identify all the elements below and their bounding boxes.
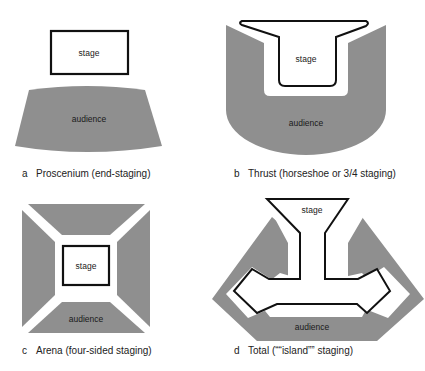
panel-arena: stage audience <box>0 185 212 371</box>
caption-c: cArena (four-sided staging) <box>22 345 152 356</box>
arena-diagram: stage audience <box>0 185 212 371</box>
caption-letter: a <box>22 168 36 179</box>
stage-label: stage <box>302 205 323 215</box>
total-diagram: stage audience <box>212 185 425 371</box>
stage-label: stage <box>76 261 97 271</box>
proscenium-diagram: stage audience <box>0 0 212 185</box>
panel-thrust: stage audience <box>212 0 425 185</box>
caption-title: Proscenium (end-staging) <box>36 168 151 179</box>
caption-title: Thrust (horseshoe or 3/4 staging) <box>248 168 396 179</box>
audience-top <box>28 204 145 235</box>
caption-title: Total (““island”” staging) <box>248 345 353 356</box>
caption-letter: b <box>234 168 248 179</box>
caption-title: Arena (four-sided staging) <box>36 345 152 356</box>
audience-left <box>22 210 55 327</box>
stage-label: stage <box>79 48 100 58</box>
caption-letter: d <box>234 345 248 356</box>
caption-d: dTotal (““island”” staging) <box>234 345 353 356</box>
thrust-diagram: stage audience <box>212 0 425 185</box>
audience-label: audience <box>69 314 104 324</box>
audience-right <box>117 210 150 327</box>
audience-label: audience <box>289 118 324 128</box>
audience-label: audience <box>72 114 107 124</box>
audience-label: audience <box>295 322 330 332</box>
stage-label: stage <box>296 54 317 64</box>
panel-proscenium: stage audience <box>0 0 212 185</box>
caption-b: bThrust (horseshoe or 3/4 staging) <box>234 168 396 179</box>
panel-total: stage audience <box>212 185 425 371</box>
caption-a: aProscenium (end-staging) <box>22 168 151 179</box>
caption-letter: c <box>22 345 36 356</box>
